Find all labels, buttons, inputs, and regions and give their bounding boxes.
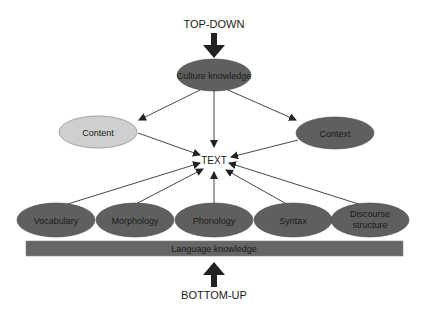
top-down-arrow-icon bbox=[203, 33, 225, 58]
diagram-canvas: TOP-DOWN Culture knowledge Content Conte… bbox=[0, 0, 428, 309]
svg-text:structure: structure bbox=[352, 220, 387, 230]
svg-text:Discourse: Discourse bbox=[350, 209, 390, 219]
top-down-label: TOP-DOWN bbox=[184, 18, 245, 30]
svg-text:Context: Context bbox=[319, 129, 351, 139]
svg-text:Culture knowledge: Culture knowledge bbox=[177, 71, 252, 81]
context-node: Context bbox=[296, 117, 374, 149]
morphology-node: Morphology bbox=[96, 203, 174, 237]
svg-text:Vocabulary: Vocabulary bbox=[34, 216, 79, 226]
svg-text:Morphology: Morphology bbox=[111, 216, 159, 226]
phonology-node: Phonology bbox=[175, 203, 253, 237]
syntax-node: Syntax bbox=[254, 203, 332, 237]
discourse-structure-node: Discourse structure bbox=[331, 203, 409, 237]
content-node: Content bbox=[59, 116, 137, 148]
svg-text:Phonology: Phonology bbox=[193, 216, 236, 226]
top-arrows bbox=[58, 90, 368, 207]
bottom-up-label: BOTTOM-UP bbox=[181, 289, 247, 301]
svg-text:Content: Content bbox=[82, 128, 114, 138]
vocabulary-node: Vocabulary bbox=[17, 203, 95, 237]
svg-text:Language knowledge: Language knowledge bbox=[171, 244, 257, 254]
svg-text:Syntax: Syntax bbox=[279, 216, 307, 226]
text-center-label: TEXT bbox=[201, 155, 227, 166]
culture-knowledge-node: Culture knowledge bbox=[177, 59, 252, 91]
language-knowledge-bar: Language knowledge bbox=[26, 241, 403, 256]
bottom-up-arrow-icon bbox=[203, 262, 225, 287]
